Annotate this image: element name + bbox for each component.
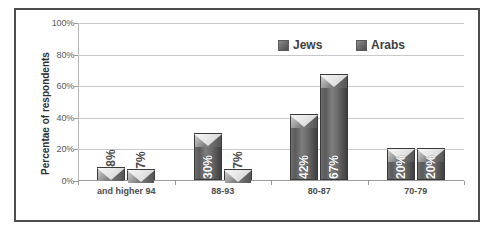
y-tick-mark bbox=[74, 86, 78, 87]
bar-value-label: 7% bbox=[134, 151, 148, 168]
bar-series-container: 8%7%30%7%42%67%20%20% bbox=[78, 23, 464, 180]
category-label: and higher 94 bbox=[78, 186, 175, 196]
bar-group: 8%7% bbox=[78, 23, 175, 180]
bar-body bbox=[127, 169, 155, 180]
category-label: 80-87 bbox=[271, 186, 368, 196]
bar-group: 42%67% bbox=[271, 23, 368, 180]
bar-group: 20%20% bbox=[368, 23, 465, 180]
bar-arabs[interactable]: 7% bbox=[127, 169, 155, 180]
bar-jews[interactable]: 42% bbox=[290, 114, 318, 180]
y-tick-label: 20% bbox=[57, 144, 74, 154]
y-tick-label: 0% bbox=[61, 176, 74, 186]
bar-value-label: 42% bbox=[297, 155, 311, 179]
bar-body bbox=[97, 167, 125, 180]
bar-arabs[interactable]: 7% bbox=[224, 169, 252, 180]
y-axis-tick-labels: 0%20%40%60%80%100% bbox=[16, 23, 74, 181]
bar-value-label: 30% bbox=[201, 155, 215, 179]
category-label: 88-93 bbox=[175, 186, 272, 196]
bar-value-label: 7% bbox=[231, 151, 245, 168]
bar-value-label: 8% bbox=[104, 150, 118, 167]
bar-jews[interactable]: 30% bbox=[194, 133, 222, 180]
y-tick-label: 100% bbox=[52, 18, 74, 28]
bar-value-label: 20% bbox=[424, 155, 438, 179]
bar-group: 30%7% bbox=[175, 23, 272, 180]
bar-jews[interactable]: 20% bbox=[387, 148, 415, 180]
bar-jews[interactable]: 8% bbox=[97, 167, 125, 180]
x-tick-mark bbox=[175, 181, 176, 185]
bar-value-label: 20% bbox=[394, 155, 408, 179]
y-tick-label: 60% bbox=[57, 81, 74, 91]
bar-body bbox=[224, 169, 252, 180]
y-tick-label: 40% bbox=[57, 113, 74, 123]
y-tick-mark bbox=[74, 55, 78, 56]
bar-arabs[interactable]: 20% bbox=[417, 148, 445, 180]
chart-frame: Percentae of respondents 0%20%40%60%80%1… bbox=[14, 8, 480, 222]
x-tick-mark bbox=[78, 181, 79, 185]
y-tick-label: 80% bbox=[57, 50, 74, 60]
x-axis-category-labels: and higher 9488-9380-8770-79 bbox=[78, 186, 464, 204]
bar-value-label: 67% bbox=[327, 155, 341, 179]
bar-arabs[interactable]: 67% bbox=[320, 74, 348, 180]
x-tick-mark bbox=[271, 181, 272, 185]
category-label: 70-79 bbox=[368, 186, 465, 196]
plot-area: 8%7%30%7%42%67%20%20% JewsArabs bbox=[78, 23, 464, 181]
x-tick-mark bbox=[368, 181, 369, 185]
y-tick-mark bbox=[74, 23, 78, 24]
x-tick-mark bbox=[464, 181, 465, 185]
y-tick-mark bbox=[74, 149, 78, 150]
y-tick-mark bbox=[74, 118, 78, 119]
